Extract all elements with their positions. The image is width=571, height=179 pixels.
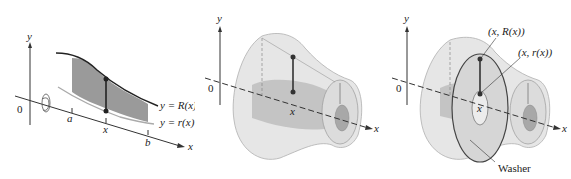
origin-label: 0 [208,82,214,94]
tick-x-label: x [102,123,108,135]
solid-diagram: y 0 x x [190,0,380,179]
tick-x-label: x [476,102,482,114]
washer-label: Washer [498,162,531,174]
upper-point [104,77,109,82]
inner-point-label: (x, r(x)) [518,46,553,59]
x-axis-label: x [561,122,567,134]
origin-label: 0 [17,103,23,115]
washer-panel: y 0 x x (x, R(x)) (x, r(x)) Washer [380,0,571,179]
shaded-region [72,58,148,122]
tick-x-label: x [289,105,295,117]
washer-diagram: y 0 x x (x, R(x)) (x, r(x)) Washer [380,0,571,179]
solid-panel: y 0 x x [190,0,380,179]
y-axis-label: y [403,12,409,24]
tick-a-label: a [67,112,73,124]
y-axis-label: y [216,12,222,24]
y-axis-arrow-icon [28,42,32,48]
region-panel: y x 0 a x b y = R(x) y = r(x) [0,0,195,179]
x-axis-arrow-icon [177,143,185,148]
x-axis-label: x [373,122,379,134]
origin-label: 0 [396,82,402,94]
outer-point-label: (x, R(x)) [488,25,525,38]
y-axis-label: y [26,30,32,42]
lower-point [104,109,109,114]
tick-b-label: b [145,136,151,148]
region-diagram: y x 0 a x b y = R(x) y = r(x) [0,0,195,179]
